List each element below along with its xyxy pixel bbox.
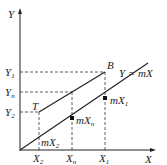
annotation-mxn: mXn <box>76 114 95 128</box>
x-axis-label: X <box>144 153 153 165</box>
annotation-mx2: mX2 <box>41 136 60 150</box>
y-tick-y2: Y2 <box>5 106 15 120</box>
x-tick-x1: X1 <box>98 152 109 165</box>
line-label: Y = mX <box>119 67 154 79</box>
point-t-label: T <box>32 100 39 112</box>
annotation-mx1: mX1 <box>110 94 128 108</box>
point-mxn <box>70 116 74 120</box>
point-mx1 <box>103 96 107 100</box>
y-tick-yn: Yn <box>5 86 15 100</box>
x-axis-arrow-icon <box>150 148 156 152</box>
y-tick-y1: Y1 <box>5 66 15 80</box>
y-axis-label: Y <box>8 8 16 20</box>
x-tick-xn: Xn <box>65 152 77 165</box>
point-b-label: B <box>107 59 114 71</box>
y-axis-arrow-icon <box>18 8 22 14</box>
x-tick-x2: X2 <box>32 152 44 165</box>
line-t-to-b <box>39 72 105 112</box>
diagram-canvas: Y X B T Y = mX Y1 Yn Y2 X2 Xn X1 mX1 mXn… <box>0 0 167 165</box>
